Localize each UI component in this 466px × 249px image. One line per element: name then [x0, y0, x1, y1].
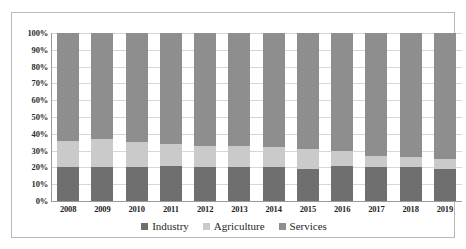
legend-item-industry[interactable]: Industry [141, 221, 189, 232]
y-axis-tick-label: 50% [14, 113, 48, 122]
legend-label: Services [290, 221, 327, 232]
x-axis-tick-label: 2018 [394, 204, 428, 214]
x-axis-tick-label: 2019 [428, 204, 462, 214]
x-axis-line [51, 201, 462, 202]
bar-group[interactable] [297, 33, 319, 201]
chart-legend: IndustryAgricultureServices [12, 221, 456, 232]
y-axis-line [51, 33, 52, 202]
x-axis-tick-label: 2015 [291, 204, 325, 214]
legend-item-services[interactable]: Services [279, 221, 327, 232]
bar-segment-agriculture[interactable] [57, 141, 79, 168]
y-axis-tick-label: 20% [14, 163, 48, 172]
bar-segment-industry[interactable] [194, 167, 216, 201]
bar-group[interactable] [228, 33, 250, 201]
bar-segment-industry[interactable] [228, 167, 250, 201]
bar-group[interactable] [91, 33, 113, 201]
y-axis-tick-label: 60% [14, 96, 48, 105]
bar-segment-services[interactable] [160, 33, 182, 144]
x-axis-tick-label: 2011 [154, 204, 188, 214]
legend-item-agriculture[interactable]: Agriculture [203, 221, 265, 232]
chart-plot-frame: 100%90%80%70%60%50%40%30%20%10%0% 200820… [11, 12, 455, 238]
bar-segment-agriculture[interactable] [126, 142, 148, 167]
bar-segment-agriculture[interactable] [400, 157, 422, 167]
y-axis-tick-label: 30% [14, 147, 48, 156]
bar-segment-agriculture[interactable] [228, 146, 250, 168]
bar-segment-industry[interactable] [57, 167, 79, 201]
bar-segment-services[interactable] [228, 33, 250, 146]
legend-swatch-icon [203, 223, 210, 230]
bar-segment-agriculture[interactable] [331, 151, 353, 166]
bar-segment-agriculture[interactable] [91, 139, 113, 168]
bar-segment-services[interactable] [400, 33, 422, 157]
bar-segment-services[interactable] [331, 33, 353, 151]
bar-segment-services[interactable] [194, 33, 216, 146]
x-axis-tick-label: 2009 [85, 204, 119, 214]
x-axis-tick-labels: 2008200920102011201220132014201520162017… [51, 204, 462, 218]
bar-segment-agriculture[interactable] [263, 147, 285, 167]
x-axis-tick-label: 2008 [51, 204, 85, 214]
legend-label: Industry [152, 221, 189, 232]
bar-segment-industry[interactable] [400, 167, 422, 201]
bar-segment-services[interactable] [126, 33, 148, 142]
bar-segment-services[interactable] [434, 33, 456, 159]
bar-segment-services[interactable] [91, 33, 113, 139]
bar-segment-agriculture[interactable] [434, 159, 456, 169]
bar-group[interactable] [434, 33, 456, 201]
y-axis-tick-label: 40% [14, 130, 48, 139]
legend-swatch-icon [141, 223, 148, 230]
bar-segment-industry[interactable] [263, 167, 285, 201]
bar-group[interactable] [126, 33, 148, 201]
bar-segment-industry[interactable] [331, 166, 353, 201]
x-axis-tick-label: 2013 [222, 204, 256, 214]
y-axis-tick-label: 90% [14, 46, 48, 55]
chart-plot-area [51, 33, 462, 201]
bar-segment-industry[interactable] [126, 167, 148, 201]
x-axis-tick-label: 2017 [359, 204, 393, 214]
bar-group[interactable] [365, 33, 387, 201]
x-axis-tick-label: 2010 [120, 204, 154, 214]
y-axis-tick-label: 100% [14, 29, 48, 38]
x-axis-tick-label: 2016 [325, 204, 359, 214]
bar-segment-agriculture[interactable] [365, 156, 387, 168]
bar-segment-services[interactable] [365, 33, 387, 156]
bar-segment-services[interactable] [297, 33, 319, 149]
bar-group[interactable] [400, 33, 422, 201]
bar-segment-agriculture[interactable] [160, 144, 182, 166]
bar-segment-services[interactable] [57, 33, 79, 141]
bar-group[interactable] [160, 33, 182, 201]
bar-group[interactable] [194, 33, 216, 201]
y-axis-tick-label: 70% [14, 79, 48, 88]
bar-group[interactable] [57, 33, 79, 201]
y-axis-tick-label: 10% [14, 180, 48, 189]
bar-segment-industry[interactable] [365, 167, 387, 201]
bar-group[interactable] [331, 33, 353, 201]
legend-label: Agriculture [214, 221, 265, 232]
bar-segment-industry[interactable] [91, 167, 113, 201]
stacked-bar-chart: 100%90%80%70%60%50%40%30%20%10%0% 200820… [0, 0, 466, 249]
bar-segment-agriculture[interactable] [297, 149, 319, 169]
bar-segment-services[interactable] [263, 33, 285, 147]
bar-segment-industry[interactable] [434, 169, 456, 201]
bar-group[interactable] [263, 33, 285, 201]
legend-swatch-icon [279, 223, 286, 230]
bar-segment-industry[interactable] [297, 169, 319, 201]
y-axis-tick-label: 80% [14, 63, 48, 72]
x-axis-tick-label: 2012 [188, 204, 222, 214]
y-axis-tick-label: 0% [14, 197, 48, 206]
bar-segment-agriculture[interactable] [194, 146, 216, 168]
x-axis-tick-label: 2014 [257, 204, 291, 214]
y-axis-tick-labels: 100%90%80%70%60%50%40%30%20%10%0% [12, 33, 48, 201]
bar-segment-industry[interactable] [160, 166, 182, 201]
